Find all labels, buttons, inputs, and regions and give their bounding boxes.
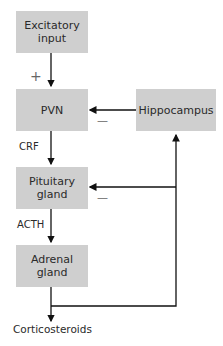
label-crf: CRF (19, 141, 39, 152)
node-pituitary-gland: Pituitary gland (16, 167, 88, 209)
label-acth: ACTH (17, 219, 44, 230)
minus-sign-pituitary: — (97, 191, 108, 204)
node-excitatory-input: Excitatory input (16, 11, 88, 53)
label-corticosteroids: Corticosteroids (13, 323, 92, 335)
minus-sign-pvn: — (97, 114, 108, 127)
node-hippocampus: Hippocampus (136, 89, 216, 131)
node-pvn: PVN (16, 89, 88, 131)
plus-sign: + (30, 68, 42, 84)
node-adrenal-gland: Adrenal gland (16, 245, 88, 287)
